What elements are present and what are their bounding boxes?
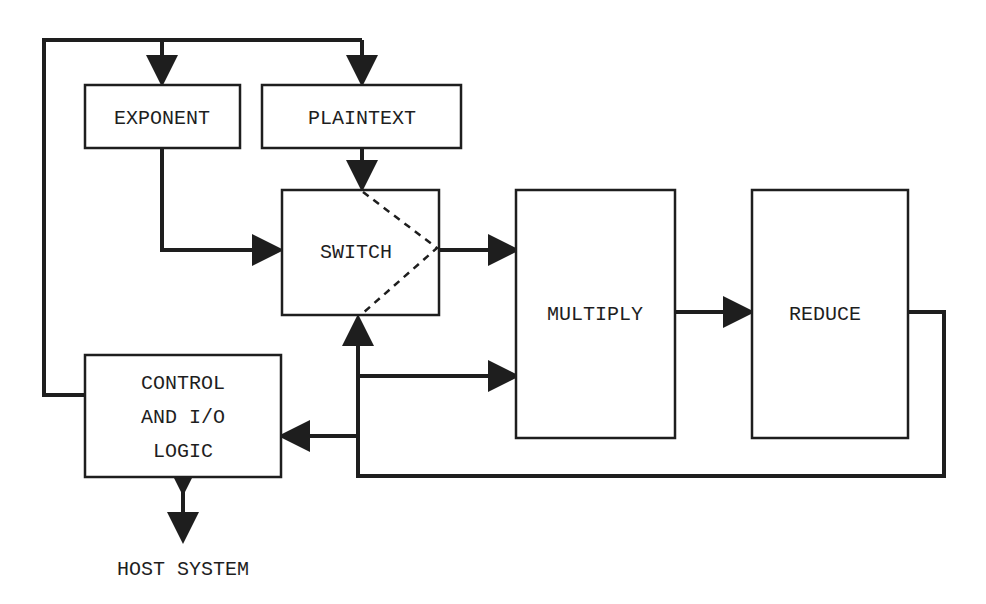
reduce-block: REDUCE (752, 190, 908, 438)
svg-text:MULTIPLY: MULTIPLY (547, 303, 643, 326)
svg-text:AND I/O: AND I/O (141, 406, 225, 429)
multiply-block: MULTIPLY (516, 190, 675, 438)
block-diagram: EXPONENT PLAINTEXT SWITCH MULTIPLY REDUC… (0, 0, 986, 604)
svg-text:REDUCE: REDUCE (789, 303, 861, 326)
host-system-label: HOST SYSTEM (117, 558, 249, 581)
svg-text:CONTROL: CONTROL (141, 372, 225, 395)
plaintext-block: PLAINTEXT (262, 85, 461, 148)
wire-exponent-to-switch (162, 148, 280, 250)
control-io-logic-block: CONTROL AND I/O LOGIC (85, 355, 281, 477)
svg-text:PLAINTEXT: PLAINTEXT (308, 107, 416, 130)
svg-text:SWITCH: SWITCH (320, 241, 392, 264)
exponent-block: EXPONENT (85, 85, 240, 148)
svg-text:LOGIC: LOGIC (153, 440, 213, 463)
svg-text:EXPONENT: EXPONENT (114, 107, 210, 130)
switch-block: SWITCH (282, 190, 439, 315)
